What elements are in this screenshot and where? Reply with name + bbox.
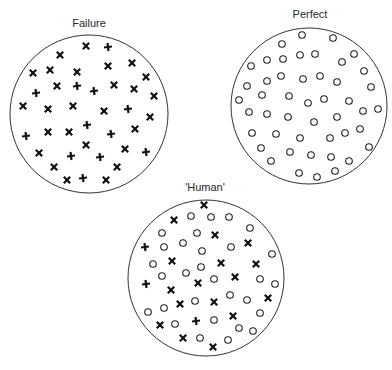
circle-marker-icon (317, 73, 324, 80)
circle-marker-icon (192, 298, 199, 305)
circle-marker-icon (264, 57, 271, 64)
circle-marker-icon (172, 321, 179, 328)
circle-marker-icon (269, 251, 276, 258)
circle-marker-icon (249, 130, 256, 137)
x-cross-marker-icon (168, 287, 174, 293)
panel-boundary-circle (10, 35, 168, 193)
circle-marker-icon (145, 309, 152, 316)
x-cross-marker-icon (74, 69, 80, 75)
plus-cross-marker-icon (79, 174, 87, 182)
x-cross-marker-icon (70, 103, 76, 109)
x-cross-marker-icon (101, 108, 107, 114)
circle-marker-icon (198, 264, 205, 271)
plus-cross-marker-icon (142, 148, 150, 156)
x-cross-marker-icon (105, 63, 111, 69)
x-cross-marker-icon (143, 74, 149, 80)
circle-marker-icon (236, 325, 243, 332)
circle-marker-icon (227, 292, 234, 299)
plus-cross-marker-icon (22, 132, 30, 140)
x-cross-marker-icon (54, 83, 60, 89)
circle-marker-icon (250, 328, 257, 335)
circle-marker-icon (299, 32, 306, 39)
panel-boundary-circle (128, 200, 284, 356)
circle-marker-icon (300, 76, 307, 83)
circle-marker-icon (258, 145, 265, 152)
circle-marker-icon (272, 281, 279, 288)
circle-marker-icon (314, 174, 321, 181)
plus-cross-marker-icon (141, 243, 149, 251)
x-cross-marker-icon (122, 146, 128, 152)
circle-marker-icon (244, 297, 251, 304)
x-cross-marker-icon (212, 232, 218, 238)
circle-marker-icon (368, 84, 375, 91)
x-cross-marker-icon (30, 70, 36, 76)
panel-perfect (231, 28, 387, 184)
plus-cross-marker-icon (67, 152, 75, 160)
circle-marker-icon (334, 114, 341, 121)
circle-marker-icon (259, 92, 266, 99)
circle-marker-icon (361, 68, 368, 75)
x-cross-marker-icon (232, 274, 238, 280)
circle-marker-icon (280, 56, 287, 63)
circle-marker-icon (208, 214, 215, 221)
plus-cross-marker-icon (32, 89, 40, 97)
circle-marker-icon (327, 135, 334, 142)
circle-marker-icon (375, 106, 382, 113)
circle-marker-icon (311, 119, 318, 126)
circle-marker-icon (183, 270, 190, 277)
circle-marker-icon (297, 135, 304, 142)
x-cross-marker-icon (210, 344, 216, 350)
plus-cross-marker-icon (107, 130, 115, 138)
circle-marker-icon (159, 273, 166, 280)
x-cross-marker-icon (47, 67, 53, 73)
circle-marker-icon (248, 63, 255, 70)
x-cross-marker-icon (103, 177, 109, 183)
diagram: Failure Perfect 'Human' (0, 0, 392, 370)
circle-marker-icon (321, 96, 328, 103)
circle-marker-icon (285, 114, 292, 121)
circle-marker-icon (228, 244, 235, 251)
circle-marker-icon (159, 230, 166, 237)
x-cross-marker-icon (64, 177, 70, 183)
x-cross-marker-icon (171, 217, 177, 223)
circle-marker-icon (339, 59, 346, 66)
circle-marker-icon (236, 97, 243, 104)
circle-marker-icon (273, 131, 280, 138)
circle-marker-icon (279, 41, 286, 48)
x-cross-marker-icon (177, 301, 183, 307)
panel-human (128, 200, 284, 356)
x-cross-marker-icon (245, 240, 251, 246)
x-cross-marker-icon (111, 82, 117, 88)
circle-marker-icon (287, 149, 294, 156)
circle-marker-icon (197, 335, 204, 342)
circle-marker-icon (360, 108, 367, 115)
plus-cross-marker-icon (90, 87, 98, 95)
x-cross-marker-icon (57, 52, 63, 58)
circle-marker-icon (247, 225, 254, 232)
circle-marker-icon (366, 144, 373, 151)
circle-marker-icon (328, 154, 335, 161)
circle-marker-icon (257, 276, 264, 283)
circle-marker-icon (342, 130, 349, 137)
circle-marker-icon (225, 337, 232, 344)
x-cross-marker-icon (265, 295, 271, 301)
circle-marker-icon (161, 305, 168, 312)
x-cross-marker-icon (218, 260, 224, 266)
x-cross-marker-icon (51, 164, 57, 170)
x-cross-marker-icon (211, 299, 217, 305)
x-cross-marker-icon (132, 126, 138, 132)
plus-cross-marker-icon (124, 105, 132, 113)
x-cross-marker-icon (129, 60, 135, 66)
circle-marker-icon (308, 152, 315, 159)
circle-marker-icon (244, 83, 251, 90)
panel-failure (10, 35, 168, 193)
x-cross-marker-icon (114, 164, 120, 170)
circle-marker-icon (211, 317, 218, 324)
x-cross-marker-icon (230, 313, 236, 319)
x-cross-marker-icon (45, 129, 51, 135)
plus-cross-marker-icon (83, 121, 91, 129)
circle-marker-icon (332, 168, 339, 175)
plus-cross-marker-icon (142, 280, 150, 288)
circle-marker-icon (297, 52, 304, 59)
x-cross-marker-icon (201, 202, 207, 208)
